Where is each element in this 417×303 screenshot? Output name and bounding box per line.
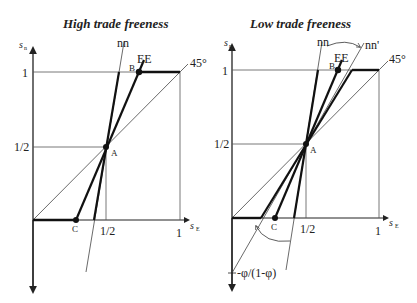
- y-tick-1: 1: [222, 64, 228, 78]
- ee-label: EE: [334, 51, 349, 65]
- point-b: [335, 67, 341, 73]
- x-axis-subscript: E: [196, 226, 200, 232]
- x-tick-1: 1: [176, 226, 182, 240]
- point-a-label: A: [310, 145, 317, 155]
- point-c: [73, 217, 79, 223]
- point-c-label: C: [72, 224, 78, 234]
- ee-curve: [275, 60, 342, 218]
- x-axis-label: s: [389, 217, 393, 228]
- intercept-label: -φ/(1-φ): [237, 266, 276, 280]
- point-c-label: C: [271, 222, 277, 232]
- y-axis-label: s: [19, 39, 23, 50]
- point-b: [136, 69, 142, 75]
- y-tick-1: 1: [22, 66, 28, 80]
- x-tick-half: 1/2: [300, 222, 315, 236]
- panel-title: High trade freeness: [62, 16, 168, 31]
- point-b-label: B: [129, 63, 135, 73]
- point-b-label: B: [329, 61, 335, 71]
- point-c: [272, 215, 278, 221]
- x-axis-label: s: [190, 220, 194, 231]
- ee-label: EE: [137, 52, 152, 66]
- nn-prime-label: nn': [365, 38, 379, 52]
- y-axis-subscript: n: [229, 43, 232, 49]
- nn-label: nn: [317, 35, 329, 49]
- x-axis-subscript: E: [395, 223, 399, 229]
- panel-high-trade-freeness: High trade freeness s n s E nn EE: [14, 16, 207, 290]
- y-tick-half: 1/2: [214, 137, 229, 151]
- diagonal-45-ext: [379, 61, 388, 70]
- x-tick-1: 1: [375, 224, 381, 238]
- panel-low-trade-freeness: Low trade freeness s n s E: [214, 16, 406, 290]
- y-axis-subscript: n: [24, 45, 27, 51]
- diagonal-45-ext: [180, 64, 188, 72]
- diagram-canvas: High trade freeness s n s E nn EE: [0, 0, 417, 303]
- diag-label: 45°: [190, 56, 207, 70]
- diag-label: 45°: [389, 52, 406, 66]
- y-tick-half: 1/2: [14, 140, 29, 154]
- nn-label: nn: [117, 36, 129, 50]
- point-a: [103, 144, 109, 150]
- ee-curve: [76, 60, 144, 220]
- point-a: [303, 141, 309, 147]
- rotation-arrow-top: [327, 42, 360, 47]
- point-a-label: A: [111, 148, 118, 158]
- y-axis-label: s: [224, 37, 228, 48]
- panel-title: Low trade freeness: [249, 16, 351, 31]
- x-tick-half: 1/2: [100, 224, 115, 238]
